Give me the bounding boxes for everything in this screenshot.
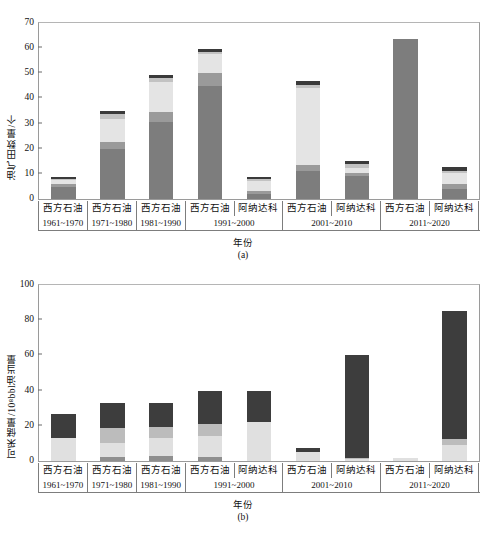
- y-tick-label: 0: [29, 455, 38, 465]
- y-tick-label: 40: [25, 92, 39, 102]
- bar-segment: [149, 427, 173, 438]
- bar-segment: [51, 438, 75, 461]
- y-tick-mark: [38, 172, 42, 173]
- bar-segment: [442, 445, 466, 461]
- y-tick-label: 30: [25, 118, 39, 128]
- bar-stack: [51, 414, 75, 461]
- panel-a-y-axis-label: 油气田数量/个: [5, 40, 19, 180]
- panel-a-category-row: 西方石油西方石油西方石油西方石油阿纳达科西方石油阿纳达科西方石油阿纳达科: [38, 201, 480, 216]
- y-tick-label: 70: [25, 17, 39, 27]
- bar-stack: [296, 448, 320, 461]
- bar-segment: [149, 82, 173, 112]
- bar-segment: [149, 456, 173, 461]
- bar-stack: [51, 177, 75, 199]
- y-tick-mark: [38, 147, 42, 148]
- bar-stack: [100, 403, 124, 461]
- period-label: 2001~2010: [283, 478, 381, 492]
- y-tick-label: 20: [25, 143, 39, 153]
- panel-a-caption: (a): [0, 250, 486, 260]
- bar-stack: [149, 75, 173, 199]
- period-label: 1991~2000: [186, 478, 284, 492]
- bar-segment: [198, 54, 222, 73]
- period-label: 2011~2020: [381, 478, 479, 492]
- panel-a: 油气田数量/个 010203040506070 西方石油西方石油西方石油西方石油…: [0, 14, 486, 264]
- period-label: 1981~1990: [137, 478, 186, 492]
- panel-a-period-row: 1961~19701971~19801981~19901991~20002001…: [38, 216, 480, 231]
- bar-stack: [247, 177, 271, 199]
- bar-stack: [198, 391, 222, 461]
- bar-segment: [100, 443, 124, 457]
- period-label: 1961~1970: [39, 216, 88, 230]
- bar-stack: [247, 391, 271, 461]
- bar-segment: [442, 173, 466, 184]
- bar-segment: [296, 171, 320, 199]
- bar-segment: [198, 391, 222, 424]
- category-label: 西方石油: [39, 201, 88, 216]
- bar-segment: [100, 142, 124, 150]
- bar-segment: [442, 311, 466, 439]
- bar-segment: [393, 458, 417, 461]
- bar-segment: [51, 187, 75, 199]
- cropped-header-text: [0, 0, 486, 11]
- bar-stack: [442, 167, 466, 199]
- panel-b: 可采储量/10⁸bbl油当量 020406080100 西方石油西方石油西方石油…: [0, 276, 486, 535]
- bar-stack: [149, 403, 173, 461]
- bar-stack: [100, 111, 124, 199]
- period-label: 1961~1970: [39, 478, 88, 492]
- y-tick-label: 20: [25, 420, 39, 430]
- y-tick-label: 0: [29, 193, 38, 203]
- panel-b-y-axis-label-text: 可采储量/10⁸bbl油当量: [7, 353, 17, 458]
- category-label: 西方石油: [186, 463, 235, 478]
- bar-stack: [393, 39, 417, 199]
- category-label: 阿纳达科: [332, 201, 381, 216]
- bar-stack: [442, 311, 466, 461]
- y-tick-mark: [38, 122, 42, 123]
- category-label: 西方石油: [283, 201, 332, 216]
- bar-segment: [296, 452, 320, 461]
- bar-segment: [100, 149, 124, 199]
- y-tick-mark: [38, 354, 42, 355]
- y-tick-label: 80: [25, 314, 39, 324]
- category-label: 西方石油: [186, 201, 235, 216]
- y-tick-label: 40: [25, 385, 39, 395]
- category-label: 西方石油: [137, 201, 186, 216]
- y-tick-mark: [38, 389, 42, 390]
- category-label: 阿纳达科: [430, 201, 479, 216]
- period-label: 1971~1980: [88, 478, 137, 492]
- bar-segment: [198, 436, 222, 457]
- panel-a-x-axis-label: 年份: [0, 235, 486, 249]
- y-tick-label: 60: [25, 349, 39, 359]
- category-label: 阿纳达科: [235, 463, 284, 478]
- category-label: 西方石油: [88, 463, 137, 478]
- bar-segment: [100, 403, 124, 428]
- y-tick-mark: [38, 47, 42, 48]
- y-tick-mark: [38, 97, 42, 98]
- bar-stack: [393, 458, 417, 461]
- category-label: 西方石油: [88, 201, 137, 216]
- bar-segment: [149, 122, 173, 199]
- panel-b-plot-area: [38, 284, 480, 462]
- bar-segment: [442, 189, 466, 199]
- y-tick-label: 50: [25, 67, 39, 77]
- category-label: 西方石油: [381, 463, 430, 478]
- panel-b-period-row: 1961~19701971~19801981~19901991~20002001…: [38, 478, 480, 493]
- bar-segment: [247, 422, 271, 461]
- panel-b-x-axis-label: 年份: [0, 497, 486, 511]
- category-label: 西方石油: [381, 201, 430, 216]
- bar-segment: [296, 88, 320, 165]
- bar-segment: [393, 39, 417, 199]
- y-tick-mark: [38, 72, 42, 73]
- bar-segment: [51, 414, 75, 438]
- bar-stack: [345, 161, 369, 199]
- y-tick-mark: [38, 424, 42, 425]
- bar-segment: [100, 428, 124, 443]
- panel-a-plot-area: [38, 22, 480, 200]
- category-label: 阿纳达科: [235, 201, 284, 216]
- bar-segment: [198, 86, 222, 199]
- bar-segment: [100, 457, 124, 461]
- bar-stack: [345, 355, 369, 461]
- bar-stack: [296, 81, 320, 199]
- category-label: 阿纳达科: [332, 463, 381, 478]
- bar-segment: [100, 119, 124, 142]
- bar-segment: [345, 176, 369, 199]
